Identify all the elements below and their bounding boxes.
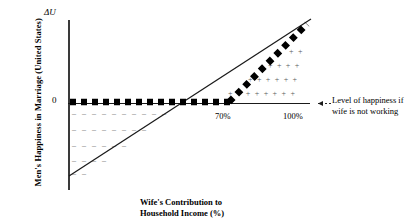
x-axis-label: Wife's Contribution to Household Income … [140, 197, 224, 218]
x-axis-label-line-2: Household Income (%) [140, 208, 224, 219]
plus-row: + + + + [268, 62, 300, 70]
minus-row: – – – – – – [72, 142, 128, 150]
annotation-line-2: wife is not working [332, 106, 404, 117]
chart-figure: Men's Happiness in Marriage (United Stat… [0, 0, 418, 222]
xtick-70: 70% [215, 112, 231, 121]
zero-horizontal-line [68, 103, 310, 104]
minus-row: – – [72, 170, 88, 178]
annotation-text: Level of happiness if wife is not workin… [332, 95, 404, 116]
minus-row: – – – – [72, 157, 108, 165]
x-axis-label-line-1: Wife's Contribution to [140, 197, 224, 208]
annotation-arrow-icon [310, 99, 332, 108]
plus-row: + + + + + + + + [228, 90, 296, 98]
plus-row: + + + + + + [248, 76, 298, 84]
xtick-100: 100% [283, 112, 303, 121]
plus-row: + + [289, 48, 304, 56]
annotation-line-1: Level of happiness if [332, 95, 404, 106]
minus-row: – – – – – – – – – – [72, 110, 168, 118]
y-axis-line [68, 20, 70, 190]
y-axis-label: Men's Happiness in Marriage (United Stat… [34, 2, 43, 202]
minus-row: – – – – – – – – [72, 126, 148, 134]
y-axis-zero-label: 0 [52, 96, 57, 105]
y-axis-symbol: ΔU [44, 8, 56, 17]
